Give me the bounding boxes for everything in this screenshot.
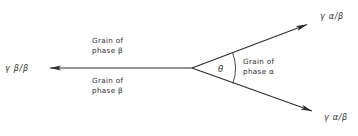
label-grain-phase-alpha: Grain of phase α <box>243 57 275 78</box>
grain-alpha-line2: phase α <box>243 67 275 77</box>
label-gamma-beta-beta: γ β/β <box>5 63 29 75</box>
label-gamma-alpha-beta-bottom: γ α/β <box>324 112 348 124</box>
label-dihedral-angle-theta: θ <box>218 63 223 75</box>
grain-beta-upper-line1: Grain of <box>92 36 124 45</box>
dihedral-angle-arc <box>233 53 236 84</box>
grain-beta-lower-line1: Grain of <box>92 76 124 85</box>
grain-beta-upper-line2: phase β <box>92 46 124 56</box>
grain-boundary-diagram: γ β/β γ α/β γ α/β Grain of phase β Grain… <box>0 0 358 136</box>
label-gamma-alpha-beta-top: γ α/β <box>320 11 344 23</box>
label-grain-phase-beta-upper: Grain of phase β <box>92 36 124 57</box>
grain-alpha-line1: Grain of <box>243 57 275 66</box>
label-grain-phase-beta-lower: Grain of phase β <box>92 76 124 97</box>
grain-beta-lower-line2: phase β <box>92 86 124 96</box>
diagram-canvas <box>0 0 358 136</box>
